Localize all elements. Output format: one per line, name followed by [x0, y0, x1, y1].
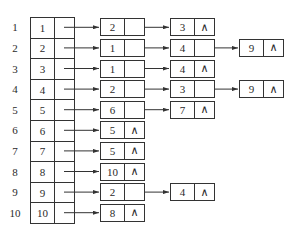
- next-pointer: [195, 81, 214, 97]
- list-node: 4∧: [170, 60, 215, 78]
- list-node: 10∧: [100, 163, 145, 181]
- head-value: 3: [31, 59, 55, 79]
- head-value: 7: [31, 142, 55, 162]
- head-pointer: [55, 100, 74, 120]
- null-pointer-icon: ∧: [195, 184, 214, 200]
- head-value: 4: [31, 80, 55, 100]
- head-value: 6: [31, 121, 55, 141]
- next-pointer: [125, 102, 144, 118]
- next-pointer: [125, 61, 144, 77]
- list-node: 9∧: [239, 80, 284, 98]
- node-value: 8: [101, 205, 125, 221]
- head-value: 10: [31, 203, 55, 223]
- head-node: 4: [30, 79, 75, 100]
- head-node: 1: [30, 17, 75, 38]
- list-node: 1: [100, 39, 145, 57]
- null-pointer-icon: ∧: [264, 40, 283, 56]
- list-node: 9∧: [239, 39, 284, 57]
- list-node: 4∧: [170, 183, 215, 201]
- head-value: 8: [31, 162, 55, 182]
- list-node: 2: [100, 18, 145, 36]
- node-value: 3: [171, 19, 195, 35]
- head-pointer: [55, 121, 74, 141]
- list-node: 4: [170, 39, 215, 57]
- head-value: 9: [31, 183, 55, 203]
- head-pointer: [55, 183, 74, 203]
- node-value: 5: [101, 122, 125, 138]
- null-pointer-icon: ∧: [125, 143, 144, 159]
- null-pointer-icon: ∧: [125, 205, 144, 221]
- null-pointer-icon: ∧: [195, 61, 214, 77]
- head-value: 2: [31, 39, 55, 59]
- head-node: 8: [30, 161, 75, 182]
- list-node: 2: [100, 183, 145, 201]
- node-value: 2: [101, 184, 125, 200]
- node-value: 2: [101, 19, 125, 35]
- row-index-label: 1: [4, 21, 26, 33]
- row-index-label: 6: [4, 124, 26, 136]
- node-value: 4: [171, 61, 195, 77]
- null-pointer-icon: ∧: [264, 81, 283, 97]
- head-node: 7: [30, 141, 75, 162]
- next-pointer: [125, 81, 144, 97]
- adjacency-list-diagram: 1123∧22149∧3314∧44239∧5567∧665∧775∧8810∧…: [0, 0, 293, 235]
- null-pointer-icon: ∧: [195, 19, 214, 35]
- next-pointer: [125, 40, 144, 56]
- list-node: 8∧: [100, 204, 145, 222]
- row-index-label: 7: [4, 145, 26, 157]
- row-index-label: 4: [4, 83, 26, 95]
- head-node: 2: [30, 38, 75, 59]
- next-pointer: [125, 184, 144, 200]
- head-node: 10: [30, 202, 75, 224]
- head-node: 9: [30, 182, 75, 203]
- null-pointer-icon: ∧: [125, 122, 144, 138]
- node-value: 5: [101, 143, 125, 159]
- next-pointer: [125, 19, 144, 35]
- row-index-label: 3: [4, 63, 26, 75]
- head-pointer: [55, 39, 74, 59]
- head-value: 5: [31, 100, 55, 120]
- row-index-label: 10: [4, 207, 26, 219]
- node-value: 9: [240, 40, 264, 56]
- list-node: 3∧: [170, 18, 215, 36]
- head-value: 1: [31, 18, 55, 38]
- list-node: 3: [170, 80, 215, 98]
- node-value: 2: [101, 81, 125, 97]
- list-node: 1: [100, 60, 145, 78]
- node-value: 1: [101, 61, 125, 77]
- null-pointer-icon: ∧: [125, 164, 144, 180]
- node-value: 6: [101, 102, 125, 118]
- row-index-label: 5: [4, 104, 26, 116]
- node-value: 3: [171, 81, 195, 97]
- head-pointer: [55, 203, 74, 223]
- list-node: 6: [100, 101, 145, 119]
- row-index-label: 9: [4, 186, 26, 198]
- row-index-label: 2: [4, 42, 26, 54]
- row-index-label: 8: [4, 166, 26, 178]
- node-value: 10: [101, 164, 125, 180]
- head-pointer: [55, 142, 74, 162]
- node-value: 1: [101, 40, 125, 56]
- head-node: 6: [30, 120, 75, 141]
- next-pointer: [195, 40, 214, 56]
- node-value: 4: [171, 184, 195, 200]
- node-value: 7: [171, 102, 195, 118]
- head-node: 5: [30, 99, 75, 120]
- list-node: 2: [100, 80, 145, 98]
- head-pointer: [55, 80, 74, 100]
- null-pointer-icon: ∧: [195, 102, 214, 118]
- node-value: 4: [171, 40, 195, 56]
- head-pointer: [55, 162, 74, 182]
- list-node: 5∧: [100, 142, 145, 160]
- list-node: 7∧: [170, 101, 215, 119]
- head-pointer: [55, 18, 74, 38]
- head-pointer: [55, 59, 74, 79]
- list-node: 5∧: [100, 121, 145, 139]
- node-value: 9: [240, 81, 264, 97]
- head-node: 3: [30, 58, 75, 79]
